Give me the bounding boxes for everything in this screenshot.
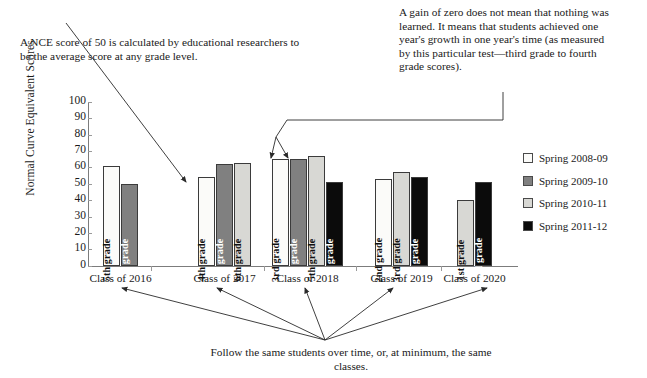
y-axis-tick-mark bbox=[88, 167, 92, 168]
legend-swatch bbox=[523, 176, 533, 186]
y-axis-tick-mark bbox=[88, 118, 92, 119]
bar[interactable]: 5th grade bbox=[216, 164, 233, 265]
chart-caption: Follow the same students over time, or, … bbox=[206, 345, 496, 373]
bar-group: 5th grade6th grade bbox=[103, 166, 138, 266]
bar[interactable]: 5th grade bbox=[103, 166, 120, 266]
bar[interactable]: 6th grade bbox=[326, 182, 343, 265]
x-axis-separator-tick bbox=[356, 266, 357, 271]
legend-swatch bbox=[523, 221, 533, 231]
bar-group: 3rd grade4th grade5th grade6th grade bbox=[272, 156, 343, 266]
y-axis-tick-label: 70 bbox=[60, 143, 86, 155]
y-axis-tick-mark bbox=[88, 102, 92, 103]
y-axis-tick-label: 100 bbox=[60, 94, 86, 106]
y-axis-title: Normal Curve Equivalent Scores bbox=[24, 31, 36, 206]
bar-group: 2nd grade3rd grade4th grade bbox=[375, 172, 428, 265]
bar[interactable]: 6th grade bbox=[121, 184, 138, 266]
legend-label: Spring 2011-12 bbox=[539, 220, 607, 232]
bar[interactable]: 5th grade bbox=[308, 156, 325, 266]
legend-item[interactable]: Spring 2008-09 bbox=[523, 152, 608, 164]
bar-group: 4th grade5th grade6th grade bbox=[198, 163, 251, 266]
bar[interactable]: 4th grade bbox=[411, 177, 428, 265]
x-axis-separator-tick bbox=[151, 266, 152, 271]
legend-swatch bbox=[523, 198, 533, 208]
y-axis-tick-mark bbox=[88, 200, 92, 201]
chart-legend: Spring 2008-09Spring 2009-10Spring 2010-… bbox=[523, 152, 608, 242]
y-axis-tick-label: 30 bbox=[60, 209, 86, 221]
y-axis-tick-label: 60 bbox=[60, 159, 86, 171]
bar[interactable]: 3rd grade bbox=[272, 159, 289, 265]
y-axis-tick-label: 80 bbox=[60, 127, 86, 139]
y-axis-tick-mark bbox=[88, 135, 92, 136]
y-axis-tick-label: 50 bbox=[60, 176, 86, 188]
y-axis-tick-label: 0 bbox=[60, 258, 86, 270]
bar[interactable]: 2nd grade bbox=[375, 179, 392, 266]
x-axis-category-label: Class of 2018 bbox=[260, 272, 356, 284]
y-axis-tick-mark bbox=[88, 233, 92, 234]
legend-label: Spring 2009-10 bbox=[539, 175, 608, 187]
x-axis-category-label: Class of 2020 bbox=[427, 272, 523, 284]
x-axis-category-label: Class of 2016 bbox=[73, 272, 169, 284]
legend-item[interactable]: Spring 2009-10 bbox=[523, 175, 608, 187]
y-axis-tick-label: 20 bbox=[60, 225, 86, 237]
legend-item[interactable]: Spring 2011-12 bbox=[523, 220, 608, 232]
legend-swatch bbox=[523, 153, 533, 163]
y-axis-tick-mark bbox=[88, 184, 92, 185]
bar[interactable]: 6th grade bbox=[234, 163, 251, 266]
y-axis-tick-label: 40 bbox=[60, 192, 86, 204]
y-axis-tick-mark bbox=[88, 249, 92, 250]
legend-item[interactable]: Spring 2010-11 bbox=[523, 197, 608, 209]
y-axis-tick-label: 10 bbox=[60, 241, 86, 253]
y-axis-tick-mark bbox=[88, 217, 92, 218]
x-axis-category-label: Class of 2017 bbox=[177, 272, 273, 284]
y-axis-ticks: 1009080706050403020100 bbox=[60, 0, 86, 378]
bar-group: 1st grade2nd grade bbox=[457, 182, 492, 265]
bar[interactable]: 3rd grade bbox=[393, 172, 410, 265]
x-axis-separator-tick bbox=[264, 266, 265, 271]
x-axis-separator-tick bbox=[441, 266, 442, 271]
bar[interactable]: 4th grade bbox=[198, 177, 215, 265]
y-axis-tick-label: 90 bbox=[60, 110, 86, 122]
bar[interactable]: 2nd grade bbox=[475, 182, 492, 265]
x-axis-line bbox=[88, 266, 518, 267]
legend-label: Spring 2010-11 bbox=[539, 197, 607, 209]
bar[interactable]: 1st grade bbox=[457, 200, 474, 265]
bar[interactable]: 4th grade bbox=[290, 159, 307, 265]
y-axis-tick-mark bbox=[88, 266, 92, 267]
legend-label: Spring 2008-09 bbox=[539, 152, 608, 164]
y-axis-tick-mark bbox=[88, 151, 92, 152]
